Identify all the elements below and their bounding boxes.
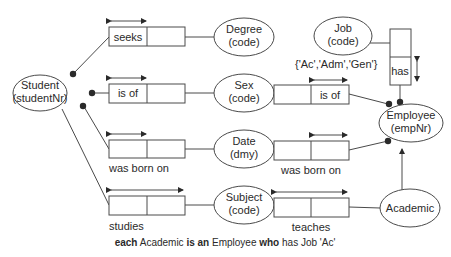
svg-text:was born on: was born on <box>108 162 169 174</box>
fact-employee-is-of[interactable]: is of <box>274 80 349 104</box>
svg-text:has: has <box>391 65 409 77</box>
orm-diagram: Student (studentNr) Degree (code) Sex (c… <box>0 0 451 257</box>
svg-text:(studentNr): (studentNr) <box>12 92 67 104</box>
svg-text:was born on: was born on <box>280 164 341 176</box>
svg-text:(dmy): (dmy) <box>230 148 258 160</box>
entity-sex[interactable]: Sex (code) <box>214 74 274 112</box>
entity-student[interactable]: Student (studentNr) <box>12 75 67 111</box>
svg-text:Date: Date <box>232 135 255 147</box>
svg-text:studies: studies <box>109 220 144 232</box>
fact-studies[interactable]: studies <box>109 190 185 232</box>
fact-seeks[interactable]: seeks <box>109 21 185 46</box>
svg-text:Employee: Employee <box>387 109 436 121</box>
svg-text:Student: Student <box>21 79 59 91</box>
entity-employee[interactable]: Employee (empNr) <box>379 104 443 142</box>
svg-text:Subject: Subject <box>226 191 263 203</box>
fact-teaches[interactable]: teaches <box>274 192 349 233</box>
caption: each Academic is an Employee who has Job… <box>115 237 336 248</box>
value-constraint: {'Ac','Adm','Gen'} <box>295 58 378 70</box>
fact-student-is-of[interactable]: is of <box>109 78 185 103</box>
fact-employee-born[interactable]: was born on <box>274 135 349 176</box>
svg-text:(code): (code) <box>228 204 259 216</box>
svg-text:Degree: Degree <box>226 23 262 35</box>
svg-text:(code): (code) <box>327 35 358 47</box>
fact-student-born[interactable]: was born on <box>108 134 185 174</box>
fact-has[interactable]: has <box>390 29 417 85</box>
svg-text:Sex: Sex <box>235 79 254 91</box>
svg-text:(code): (code) <box>228 92 259 104</box>
entity-academic[interactable]: Academic <box>380 189 440 227</box>
entity-degree[interactable]: Degree (code) <box>214 18 274 56</box>
entity-subject[interactable]: Subject (code) <box>214 186 274 224</box>
svg-text:(empNr): (empNr) <box>391 122 431 134</box>
svg-text:Academic: Academic <box>386 202 435 214</box>
svg-text:is of: is of <box>320 89 341 101</box>
entity-job[interactable]: Job (code) <box>314 17 372 55</box>
svg-text:Job: Job <box>334 22 352 34</box>
svg-text:(code): (code) <box>228 36 259 48</box>
svg-text:teaches: teaches <box>292 221 331 233</box>
svg-text:seeks: seeks <box>114 31 143 43</box>
entity-date[interactable]: Date (dmy) <box>214 130 274 168</box>
svg-text:is of: is of <box>118 87 139 99</box>
